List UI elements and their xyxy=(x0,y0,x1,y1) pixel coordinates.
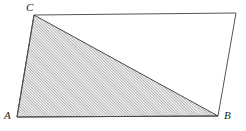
geometry-canvas xyxy=(0,0,246,131)
vertex-label-c: C xyxy=(26,2,33,13)
geometry-figure: A B C xyxy=(0,0,246,131)
shaded-triangle-abc xyxy=(17,15,218,117)
vertex-label-a: A xyxy=(4,110,11,121)
vertex-label-b: B xyxy=(224,110,231,121)
